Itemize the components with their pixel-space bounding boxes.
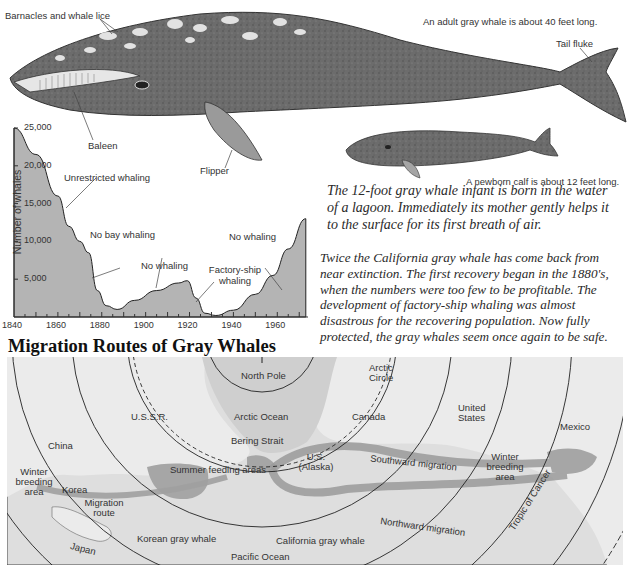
population-chart [0,120,320,320]
y-tick-label: 20,000 [24,160,52,170]
y-tick-label: 10,000 [24,235,52,245]
annotation-unrestricted: Unrestricted whaling [64,172,150,183]
x-tick-label: 1900 [134,320,154,330]
summer-feeding-label: Summer feeding areas [170,465,266,475]
x-tick-label: 1840 [2,320,22,330]
california-gray-whale-label: California gray whale [276,536,365,546]
korea-label: Korea [62,485,87,495]
x-tick-label: 1920 [178,320,198,330]
arctic-circle-label: Arctic Circle [369,363,409,383]
alaska-label: U.S. (Alaska) [296,452,336,472]
migration-route-label: Migration route [82,498,126,518]
population-area [14,128,306,317]
calf-whale [346,128,558,178]
pacific-ocean-label: Pacific Ocean [231,552,290,562]
infant-caption: The 12-foot gray whale infant is born in… [327,182,617,233]
tail-fluke-label: Tail fluke [556,38,593,49]
annotation-no-whaling-2: No whaling [229,231,276,242]
annotation-no-whaling-1: No whaling [141,260,188,271]
y-tick-label: 5,000 [24,273,47,283]
x-tick-label: 1880 [90,320,110,330]
map-title: Migration Routes of Gray Whales [8,336,276,357]
winter-breeding-east-label: Winter breeding area [485,452,525,482]
x-tick-label: 1960 [265,320,285,330]
bering-strait-label: Bering Strait [231,436,283,446]
y-axis-label: Number of whales [11,157,23,267]
y-tick-label: 25,000 [24,122,52,132]
ussr-label: U.S.S.R. [131,412,168,422]
korean-gray-whale-label: Korean gray whale [137,534,216,544]
mexico-label: Mexico [560,422,590,432]
north-pole-label: North Pole [241,371,286,381]
x-tick-label: 1940 [221,320,241,330]
united-states-label: United States [458,403,498,423]
canada-label: Canada [352,412,385,422]
arctic-ocean-label: Arctic Ocean [234,412,288,422]
china-label: China [48,441,73,451]
y-tick-label: 15,000 [24,198,52,208]
annotation-factory-ship: Factory-ship whaling [207,264,263,286]
x-tick-label: 1860 [46,320,66,330]
winter-breeding-west-label: Winter breeding area [14,467,54,497]
barnacles-label: Barnacles and whale lice [5,10,110,21]
adult-size-label: An adult gray whale is about 40 feet lon… [423,16,597,27]
recovery-caption: Twice the California gray whale has come… [320,250,620,345]
annotation-no-bay: No bay whaling [90,229,155,240]
